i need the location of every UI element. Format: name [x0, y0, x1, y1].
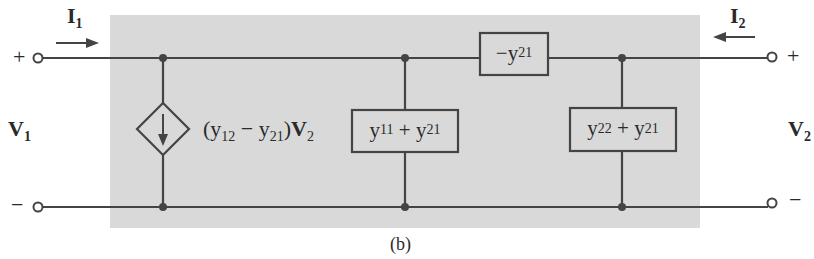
series-admittance-label: −y21 — [480, 33, 548, 73]
right-minus-sign: − — [789, 189, 801, 211]
terminal-right-top — [768, 53, 777, 62]
left-minus-sign: − — [11, 194, 23, 216]
terminal-left-top — [34, 54, 43, 63]
right-plus-sign: + — [787, 45, 799, 67]
terminal-left-bottom — [34, 203, 43, 212]
current-i1-label: I1 — [67, 5, 83, 31]
two-port-equivalent-circuit: I1 + V1 − I2 + V2 − (y12 − y21)V2 −y21 y… — [0, 0, 814, 259]
dependent-source-label: (y12 − y21)V2 — [203, 118, 314, 144]
voltage-v1-label: V1 — [8, 118, 31, 144]
shunt-left-label: y11 + y21 — [352, 110, 458, 150]
left-arrow-icon — [713, 32, 755, 42]
figure-caption: (b) — [390, 234, 411, 255]
terminal-right-bottom — [768, 199, 777, 208]
right-arrow-icon — [56, 38, 99, 48]
voltage-v2-label: V2 — [788, 118, 811, 144]
current-i2-label: I2 — [730, 5, 746, 31]
left-plus-sign: + — [13, 46, 25, 68]
shunt-right-label: y22 + y21 — [570, 108, 676, 149]
